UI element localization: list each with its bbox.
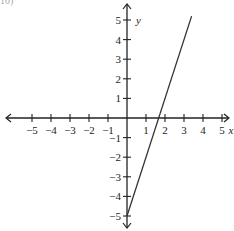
y-axis-label: y xyxy=(135,14,141,26)
y-tick-label: −5 xyxy=(109,210,121,222)
x-tick-label: 3 xyxy=(181,124,187,136)
y-tick-label: 2 xyxy=(116,73,122,85)
y-tick-label: −4 xyxy=(109,190,121,202)
x-tick-label: −4 xyxy=(45,124,57,136)
x-axis-label: x xyxy=(228,124,234,136)
y-tick-label: 1 xyxy=(116,92,122,104)
y-tick-label: −1 xyxy=(109,132,121,144)
y-tick-label: 4 xyxy=(116,34,122,46)
y-tick-label: −2 xyxy=(109,151,121,163)
x-tick-label: −3 xyxy=(64,124,76,136)
x-tick-label: −2 xyxy=(83,124,95,136)
y-tick-label: 3 xyxy=(116,53,122,65)
x-tick-label: 4 xyxy=(200,124,206,136)
x-tick-label: 5 xyxy=(219,124,225,136)
x-tick-label: −5 xyxy=(26,124,38,136)
graph-line xyxy=(127,16,192,216)
coordinate-plane: −5−4−3−2−112345−5−4−3−2−112345xy xyxy=(0,0,234,231)
x-tick-label: 1 xyxy=(143,124,149,136)
y-tick-label: 5 xyxy=(116,14,122,26)
y-tick-label: −3 xyxy=(109,171,121,183)
x-tick-label: 2 xyxy=(162,124,168,136)
